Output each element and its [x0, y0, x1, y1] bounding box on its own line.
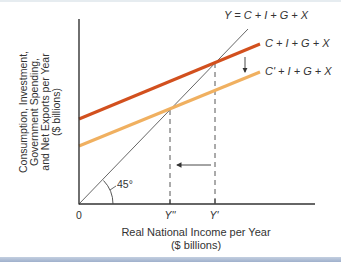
tick-label-y-prime: Y'	[209, 209, 219, 221]
label-line-red: C + I + G + X	[265, 37, 330, 49]
angle-leader-line	[110, 186, 116, 190]
y-axis-title-line-4: ($ billions)	[50, 88, 62, 136]
label-line-45: Y = C + I + G + X	[224, 9, 309, 21]
angle-arc-icon	[104, 181, 114, 205]
x-axis-title: Real National Income per Year	[121, 226, 271, 238]
tick-label-origin: 0	[76, 209, 82, 221]
label-line-tan: C' + I + G + X	[265, 65, 332, 77]
line-45-degree	[79, 29, 248, 204]
chart: Consumption, Investment, Government Spen…	[0, 0, 341, 262]
tick-label-y-double-prime: Y''	[164, 209, 176, 221]
y-axis-title: Consumption, Investment, Government Spen…	[17, 51, 62, 173]
angle-label: 45°	[117, 178, 133, 190]
x-axis-units: ($ billions)	[171, 239, 221, 251]
bottom-band	[0, 257, 341, 262]
